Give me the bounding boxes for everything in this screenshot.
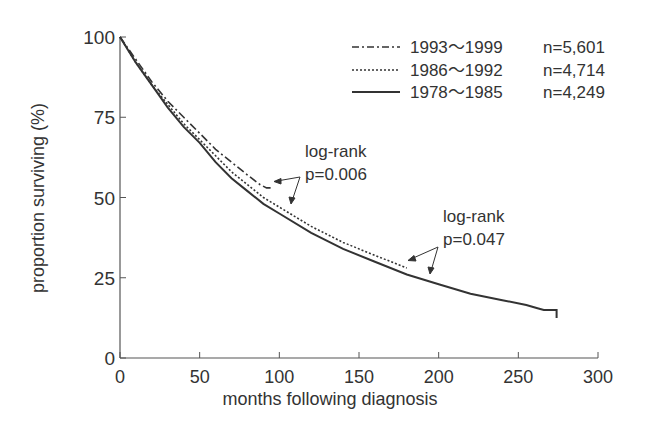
y-tick-label: 0 bbox=[104, 348, 115, 369]
x-axis-ticks: 050100150200250300 bbox=[115, 352, 613, 387]
annotation-2-line2: p=0.047 bbox=[443, 230, 505, 249]
x-tick-label: 300 bbox=[583, 367, 613, 387]
annotation-logrank-1: log-rank p=0.006 bbox=[274, 142, 367, 204]
x-tick-label: 50 bbox=[190, 367, 210, 387]
annotation-logrank-2: log-rank p=0.047 bbox=[408, 207, 505, 274]
y-tick-label: 75 bbox=[94, 107, 115, 128]
legend-n-1986: n=4,714 bbox=[543, 61, 605, 80]
y-tick-label: 50 bbox=[94, 188, 115, 209]
legend-label-1986: 1986～1992 bbox=[410, 61, 503, 80]
legend-n-1978: n=4,249 bbox=[543, 83, 605, 102]
axes bbox=[120, 37, 598, 358]
legend: 1993～1999 n=5,601 1986～1992 n=4,714 1978… bbox=[352, 38, 605, 102]
legend-label-1993: 1993～1999 bbox=[410, 38, 503, 57]
x-tick-label: 250 bbox=[503, 367, 533, 387]
annotation-2-line1: log-rank bbox=[443, 207, 505, 226]
x-axis-label: months following diagnosis bbox=[222, 389, 437, 409]
survival-chart: 0255075100 050100150200250300 months fol… bbox=[0, 0, 659, 444]
series-line-dash-dot bbox=[120, 37, 273, 188]
x-tick-label: 200 bbox=[424, 367, 454, 387]
annotation-1-line1: log-rank bbox=[305, 142, 367, 161]
x-tick-label: 0 bbox=[115, 367, 125, 387]
legend-label-1978: 1978～1985 bbox=[410, 83, 503, 102]
annotation-1-line2: p=0.006 bbox=[305, 165, 367, 184]
y-tick-label: 25 bbox=[94, 268, 115, 289]
y-tick-label: 100 bbox=[83, 27, 115, 48]
y-axis-label: proportion surviving (%) bbox=[28, 103, 48, 293]
x-tick-label: 150 bbox=[344, 367, 374, 387]
legend-n-1993: n=5,601 bbox=[543, 38, 605, 57]
x-tick-label: 100 bbox=[264, 367, 294, 387]
